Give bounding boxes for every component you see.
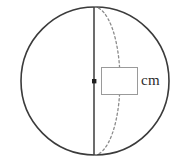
unit-label-cm: cm bbox=[141, 71, 160, 89]
measurement-answer-input[interactable] bbox=[101, 67, 138, 95]
sphere-center-dot bbox=[92, 79, 96, 83]
sphere-diagram-container: cm bbox=[0, 0, 180, 164]
